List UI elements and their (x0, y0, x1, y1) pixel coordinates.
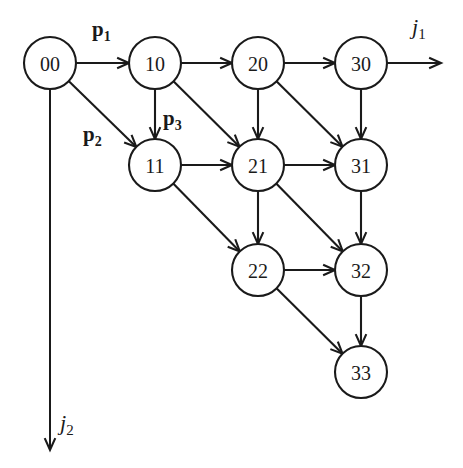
graph-canvas: 00102030112131223233 (0, 0, 463, 468)
edge-label-p3-subscript: 3 (175, 118, 182, 133)
node-32[interactable]: 32 (335, 244, 387, 296)
node-label-00: 00 (40, 53, 60, 75)
edge-22-to-32 (284, 265, 335, 276)
node-33[interactable]: 33 (335, 346, 387, 398)
node-11[interactable]: 11 (129, 139, 181, 191)
edge-20-to-31 (276, 81, 342, 146)
node-20[interactable]: 20 (232, 37, 284, 89)
edge-20-to-21 (253, 89, 264, 139)
edge-21-to-32 (276, 184, 343, 252)
edge-label-p2-subscript: 2 (95, 134, 102, 149)
edge-line-21-32 (276, 184, 343, 252)
edge-label-p3-base: p (163, 106, 175, 130)
edge-line-00-11 (69, 81, 137, 147)
edge-10-to-21 (173, 81, 239, 146)
node-label-21: 21 (248, 155, 268, 177)
node-10[interactable]: 10 (129, 37, 181, 89)
axis-label-j2: j2 (60, 412, 74, 438)
node-00[interactable]: 00 (24, 37, 76, 89)
edge-line-20-31 (276, 81, 342, 146)
node-label-20: 20 (248, 53, 268, 75)
edge-00-to-10 (76, 58, 129, 69)
axis-j2 (45, 89, 56, 450)
edge-line-10-21 (173, 81, 239, 146)
axis-label-j2-subscript: 2 (66, 422, 74, 438)
edge-label-p2: p2 (83, 124, 102, 149)
node-label-11: 11 (145, 155, 164, 177)
axis-j1 (387, 58, 441, 69)
edge-30-to-31 (356, 89, 367, 139)
edge-line-22-33 (276, 288, 342, 353)
edge-label-p1-subscript: 1 (104, 29, 111, 44)
edge-11-to-21 (181, 160, 232, 171)
node-label-10: 10 (145, 53, 165, 75)
node-21[interactable]: 21 (232, 139, 284, 191)
node-label-33: 33 (351, 362, 371, 384)
node-31[interactable]: 31 (335, 139, 387, 191)
edge-11-to-22 (173, 184, 240, 252)
edges-layer (69, 58, 367, 354)
edge-label-p1: p1 (92, 19, 111, 44)
node-30[interactable]: 30 (335, 37, 387, 89)
edge-10-to-11 (150, 89, 161, 139)
node-label-22: 22 (248, 260, 268, 282)
edge-label-p1-base: p (92, 17, 104, 41)
axis-label-j1: j1 (412, 16, 426, 42)
edge-label-p2-base: p (83, 122, 95, 146)
edge-20-to-30 (284, 58, 335, 69)
axis-label-j1-subscript: 1 (418, 26, 426, 42)
node-label-31: 31 (351, 155, 371, 177)
edge-21-to-22 (253, 191, 264, 244)
node-22[interactable]: 22 (232, 244, 284, 296)
node-label-30: 30 (351, 53, 371, 75)
edge-line-11-22 (173, 184, 240, 252)
edge-22-to-33 (276, 288, 342, 353)
edge-31-to-32 (356, 191, 367, 244)
edge-00-to-11 (69, 81, 137, 147)
node-label-32: 32 (351, 260, 371, 282)
trellis-diagram: 00102030112131223233 p1 p2 p3 j1 j2 (0, 0, 463, 468)
edge-label-p3: p3 (163, 108, 182, 133)
edge-32-to-33 (356, 296, 367, 346)
edge-10-to-20 (181, 58, 232, 69)
edge-21-to-31 (284, 160, 335, 171)
